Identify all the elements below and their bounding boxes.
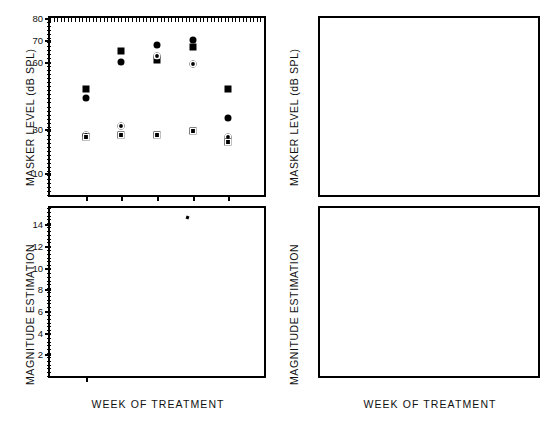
y-minor-tick [47, 107, 51, 108]
x-tick [193, 195, 195, 201]
y-minor-tick [47, 315, 51, 316]
y-minor-tick [47, 258, 51, 259]
y-tick-label: 10 [32, 167, 43, 178]
y-minor-tick [47, 223, 51, 224]
y-minor-tick [47, 365, 51, 366]
top-minor-tick [175, 18, 176, 22]
y-minor-tick [47, 307, 51, 308]
figure-root: MASKER LEVEL (dB SPL) 1030607080 MAGNITU… [0, 0, 549, 421]
top-minor-tick [71, 18, 72, 22]
data-point-open-square [82, 134, 89, 141]
y-minor-tick [47, 102, 51, 103]
top-minor-tick [100, 18, 101, 22]
top-minor-tick [228, 18, 229, 22]
top-minor-tick [107, 18, 108, 22]
data-point-filled-circle [225, 114, 232, 121]
top-minor-tick [128, 18, 129, 22]
top-minor-tick [232, 18, 233, 22]
y-minor-tick [47, 273, 51, 274]
top-minor-tick [61, 18, 62, 22]
y-minor-tick [47, 155, 51, 156]
y-minor-tick [47, 281, 51, 282]
plot-column-right: MASKER LEVEL (dB SPL) MAGNITUDE ESTIMATI… [262, 0, 549, 421]
data-point-filled-circle [118, 59, 125, 66]
top-minor-tick [207, 18, 208, 22]
top-minor-tick [79, 18, 80, 22]
y-minor-tick [47, 342, 51, 343]
y-minor-tick [47, 78, 51, 79]
y-minor-tick [47, 70, 51, 71]
plot-column-left: MASKER LEVEL (dB SPL) 1030607080 MAGNITU… [0, 0, 278, 421]
data-point-open-circle [154, 52, 161, 59]
top-minor-tick [82, 18, 83, 22]
y-minor-tick [47, 212, 51, 213]
data-point-filled-circle [82, 94, 89, 101]
y-minor-tick [47, 86, 51, 87]
y-minor-tick [47, 46, 51, 47]
y-minor-tick [47, 357, 51, 358]
y-minor-tick [47, 175, 51, 176]
y-minor-tick [47, 216, 51, 217]
y-minor-tick [47, 277, 51, 278]
y-tick-label: 6 [38, 305, 43, 316]
y-minor-tick [47, 235, 51, 236]
y-minor-tick [47, 376, 51, 377]
y-minor-tick [47, 269, 51, 270]
top-minor-tick [186, 18, 187, 22]
data-point-filled-circle [154, 41, 161, 48]
data-point-open-circle [189, 61, 196, 68]
data-point-filled-square [189, 43, 196, 50]
y-minor-tick [47, 111, 51, 112]
top-minor-tick [68, 18, 69, 22]
y-minor-tick [47, 62, 51, 63]
top-minor-tick [243, 18, 244, 22]
x-axis-title-right: WEEK OF TREATMENT [350, 398, 510, 410]
data-point-filled-square [118, 48, 125, 55]
x-axis-title-left: WEEK OF TREATMENT [78, 398, 238, 410]
y-minor-tick [47, 94, 51, 95]
top-minor-tick [121, 18, 122, 22]
panel-magnitude-estimation-left: 2468101214 [48, 206, 266, 378]
top-minor-tick [168, 18, 169, 22]
top-minor-tick [104, 18, 105, 22]
y-minor-tick [47, 208, 51, 209]
top-minor-tick [200, 18, 201, 22]
top-minor-tick [89, 18, 90, 22]
top-minor-tick [214, 18, 215, 22]
y-minor-tick [47, 261, 51, 262]
y-minor-tick [47, 368, 51, 369]
y-minor-tick [47, 143, 51, 144]
y-minor-tick [47, 231, 51, 232]
top-minor-tick [164, 18, 165, 22]
top-minor-tick [54, 18, 55, 22]
x-tick [157, 195, 159, 201]
y-minor-tick [47, 361, 51, 362]
y-minor-tick [47, 74, 51, 75]
y-minor-tick [47, 187, 51, 188]
top-minor-tick [250, 18, 251, 22]
data-point-open-square [189, 127, 196, 134]
y-minor-tick [47, 135, 51, 136]
y-minor-tick [47, 34, 51, 35]
top-minor-tick [114, 18, 115, 22]
y-tick-label: 12 [32, 240, 43, 251]
y-minor-tick [47, 131, 51, 132]
top-minor-tick [203, 18, 204, 22]
top-minor-tick [211, 18, 212, 22]
y-minor-tick [47, 183, 51, 184]
y-minor-tick [47, 296, 51, 297]
top-minor-tick [182, 18, 183, 22]
y-minor-tick [47, 167, 51, 168]
top-minor-tick [218, 18, 219, 22]
y-minor-tick [47, 171, 51, 172]
y-minor-tick [47, 349, 51, 350]
y-minor-tick [47, 330, 51, 331]
top-minor-tick [257, 18, 258, 22]
top-minor-tick [246, 18, 247, 22]
top-minor-tick [161, 18, 162, 22]
top-minor-tick [146, 18, 147, 22]
y-tick-label: 80 [32, 13, 43, 24]
panel-masker-level-left: 1030607080 [48, 16, 266, 197]
top-minor-tick [139, 18, 140, 22]
x-tick [121, 195, 123, 201]
